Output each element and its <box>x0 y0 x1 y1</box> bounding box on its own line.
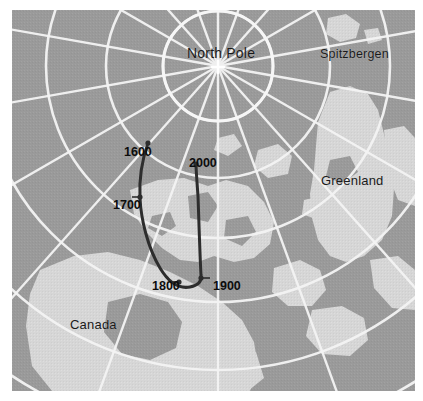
label-greenland: Greenland <box>321 174 384 187</box>
track-label-1800: 1800 <box>152 280 180 293</box>
polar-map-graphic <box>12 10 415 391</box>
label-canada: Canada <box>70 318 117 331</box>
label-north-pole: North Pole <box>187 46 255 60</box>
track-label-1900: 1900 <box>213 280 241 293</box>
track-label-1600: 1600 <box>124 146 152 159</box>
polar-map-canvas: North Pole Spitzbergen Greenland Canada … <box>12 10 415 391</box>
map-figure: North Pole Spitzbergen Greenland Canada … <box>0 0 423 401</box>
track-label-2000: 2000 <box>189 157 217 170</box>
track-label-1700: 1700 <box>113 199 141 212</box>
label-spitzbergen: Spitzbergen <box>320 48 389 61</box>
